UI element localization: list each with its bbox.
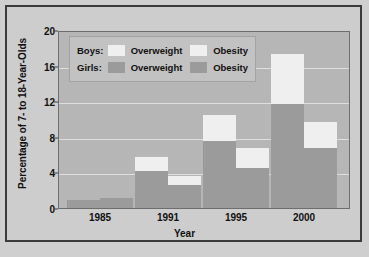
y-axis-title: Percentage of 7- to 18-Year-Olds — [17, 14, 28, 214]
legend-entry-girls-overweight: Overweight — [108, 62, 191, 73]
y-tick-label-4: 4 — [15, 168, 55, 179]
legend-swatch-boys-obesity-icon — [190, 45, 207, 56]
legend-label-boys-obesity: Obesity — [213, 45, 248, 56]
segment-boys-overweight-1995 — [203, 115, 236, 142]
bar-girls-1985 — [100, 198, 133, 208]
segment-boys-obesity-2000 — [271, 104, 304, 208]
y-tick-label-20: 20 — [15, 26, 55, 37]
segment-boys-overweight-1991 — [135, 157, 168, 170]
segment-girls-overweight-1995 — [236, 148, 269, 168]
segment-girls-obesity-1995 — [236, 168, 269, 208]
legend-swatch-boys-overweight-icon — [108, 45, 125, 56]
x-axis-title: Year — [0, 228, 369, 239]
legend-swatch-girls-overweight-icon — [108, 62, 125, 73]
segment-boys-obesity-1995 — [203, 141, 236, 208]
bar-boys-1991 — [135, 157, 168, 208]
segment-girls-overweight-1991 — [168, 176, 201, 185]
figure-canvas: Percentage of 7- to 18-Year-Olds 20 16 1… — [0, 0, 369, 257]
x-tick-label-1995: 1995 — [225, 212, 247, 223]
segment-boys-overweight-2000 — [271, 54, 304, 104]
legend-group-label-girls: Girls: — [77, 62, 108, 73]
segment-girls-overweight-2000 — [304, 122, 337, 149]
bar-girls-1995 — [236, 148, 269, 208]
legend-row-boys: Boys: Overweight Obesity — [77, 42, 248, 59]
y-tick-label-12: 12 — [15, 97, 55, 108]
bar-girls-2000 — [304, 122, 337, 208]
plot-area: Boys: Overweight Obesity Girls: Overweig… — [58, 31, 350, 209]
bar-boys-2000 — [271, 54, 304, 208]
segment-boys-obesity-1991 — [135, 171, 168, 208]
legend-entry-boys-overweight: Overweight — [108, 45, 191, 56]
bar-girls-1991 — [168, 176, 201, 208]
bar-boys-1995 — [203, 115, 236, 209]
legend-entry-girls-obesity: Obesity — [190, 62, 248, 73]
x-tick-label-1991: 1991 — [157, 212, 179, 223]
legend-row-girls: Girls: Overweight Obesity — [77, 59, 248, 76]
segment-boys-obesity-1985 — [67, 200, 100, 208]
legend-label-girls-obesity: Obesity — [213, 62, 248, 73]
legend-entry-boys-obesity: Obesity — [190, 45, 248, 56]
legend-label-girls-overweight: Overweight — [131, 62, 183, 73]
legend-swatch-girls-obesity-icon — [190, 62, 207, 73]
bar-boys-1985 — [67, 200, 100, 208]
legend-group-label-boys: Boys: — [77, 45, 108, 56]
x-tick-label-2000: 2000 — [293, 212, 315, 223]
legend-label-boys-overweight: Overweight — [131, 45, 183, 56]
y-tick-label-16: 16 — [15, 61, 55, 72]
segment-girls-obesity-2000 — [304, 148, 337, 208]
chart-legend: Boys: Overweight Obesity Girls: Overweig… — [69, 36, 256, 82]
x-tick-label-1985: 1985 — [89, 212, 111, 223]
segment-girls-obesity-1991 — [168, 185, 201, 208]
y-tick-label-8: 8 — [15, 132, 55, 143]
segment-girls-obesity-1985 — [100, 198, 133, 208]
gridline-12 — [59, 103, 349, 104]
y-tick-label-0: 0 — [15, 204, 55, 215]
